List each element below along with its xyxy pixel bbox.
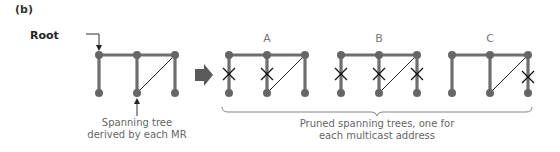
caption-line: Spanning tree <box>77 117 197 129</box>
tree-label-a: A <box>257 32 277 45</box>
pruned-tree-c <box>448 51 534 97</box>
root-pointer-arrow <box>86 34 102 51</box>
pruned-trees-caption: Pruned spanning trees, one for each mult… <box>297 118 457 142</box>
caption-line: derived by each MR <box>77 129 197 141</box>
tree-label-c: C <box>480 32 500 45</box>
tree-label-b: B <box>369 32 389 45</box>
transform-arrow-icon <box>195 64 213 86</box>
pruned-tree-b <box>335 51 423 97</box>
mr-pointer-arrow <box>134 98 140 116</box>
caption-line: each multicast address <box>297 130 457 142</box>
spanning-tree-caption: Spanning tree derived by each MR <box>77 117 197 141</box>
grouping-brace <box>222 107 532 116</box>
spanning-tree-full <box>99 55 175 93</box>
pruned-tree-a <box>223 51 309 97</box>
caption-line: Pruned spanning trees, one for <box>297 118 457 130</box>
